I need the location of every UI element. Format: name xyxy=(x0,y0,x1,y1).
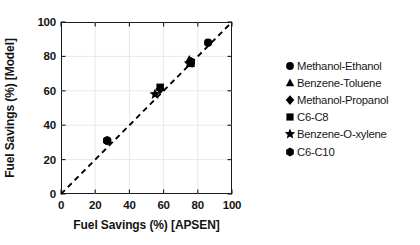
circle-marker-icon xyxy=(283,59,297,73)
legend-item-label: Benzene-O-xylene xyxy=(297,128,387,140)
x-tick-label: 40 xyxy=(123,199,135,211)
data-point xyxy=(204,39,212,47)
star-marker-icon xyxy=(283,127,297,141)
y-tick-label: 0 xyxy=(50,188,56,200)
square-marker-icon xyxy=(283,110,297,124)
legend-item-label: Methanol-Propanol xyxy=(297,94,388,106)
hexagon-marker-icon xyxy=(283,145,297,159)
legend-item-triangle: Benzene-Toluene xyxy=(283,74,415,91)
y-tick-label: 80 xyxy=(44,50,56,62)
data-markers xyxy=(103,39,212,146)
y-tick-label: 20 xyxy=(44,154,56,166)
x-tick-label: 80 xyxy=(192,199,204,211)
legend-item-square: C6-C8 xyxy=(283,109,415,126)
scatter-chart-figure: 020406080100 020406080100 Fuel Savings (… xyxy=(0,0,420,245)
plot-area: 020406080100 020406080100 xyxy=(61,22,232,194)
legend-item-hexagon: C6-C10 xyxy=(283,143,415,160)
x-axis-title: Fuel Savings (%) [APSEN] xyxy=(61,218,232,232)
y-tick-label: 60 xyxy=(44,85,56,97)
data-point xyxy=(156,84,164,92)
legend-item-label: Benzene-Toluene xyxy=(297,77,381,89)
parity-line xyxy=(61,22,232,194)
triangle-marker-icon xyxy=(283,76,297,90)
plot-canvas xyxy=(61,22,232,194)
legend-item-circle: Methanol-Ethanol xyxy=(283,57,415,74)
legend-item-label: C6-C8 xyxy=(297,111,328,123)
diamond-marker-icon xyxy=(283,93,297,107)
x-tick-label: 0 xyxy=(58,199,64,211)
chart-legend: Methanol-EthanolBenzene-TolueneMethanol-… xyxy=(283,57,415,160)
y-tick-label: 100 xyxy=(37,16,56,28)
legend-item-label: Methanol-Ethanol xyxy=(297,60,382,72)
x-tick-label: 20 xyxy=(89,199,101,211)
legend-item-label: C6-C10 xyxy=(297,146,334,158)
x-tick-label: 100 xyxy=(223,199,242,211)
y-tick-label: 40 xyxy=(44,119,56,131)
legend-item-star: Benzene-O-xylene xyxy=(283,126,415,143)
y-axis-title: Fuel Savings (%) [Model] xyxy=(3,38,17,178)
legend-item-diamond: Methanol-Propanol xyxy=(283,91,415,108)
x-tick-label: 60 xyxy=(157,199,169,211)
